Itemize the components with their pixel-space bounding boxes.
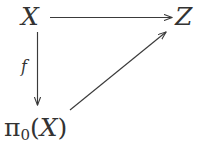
open-paren: ( (30, 113, 40, 142)
arrow-pi0x-to-z (70, 32, 166, 110)
node-z: Z (175, 4, 192, 29)
pi-subscript-0: 0 (20, 126, 30, 144)
commutative-diagram-figure: X Z π0(X) f (0, 0, 202, 154)
edge-label-f: f (21, 59, 27, 75)
node-x: X (21, 4, 39, 29)
close-paren: ) (58, 113, 68, 142)
pi-argument-x: X (40, 113, 58, 142)
pi-symbol: π (4, 113, 20, 142)
node-pi0-x: π0(X) (4, 115, 67, 143)
